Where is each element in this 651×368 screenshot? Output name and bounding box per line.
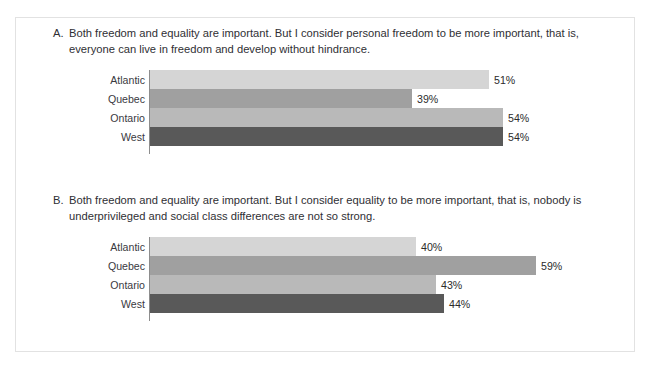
chart-a-bars: Atlantic 51% Quebec 39% Ontario 54% West <box>16 70 634 146</box>
chart-b-value-quebec: 59% <box>541 260 562 272</box>
chart-a-value-ontario: 54% <box>508 112 529 124</box>
panel-b-caption: B. Both freedom and equality are importa… <box>53 193 598 224</box>
chart-a-row-ontario: Ontario 54% <box>16 108 634 127</box>
panel-b-letter: B. <box>53 193 64 209</box>
chart-a-label-quebec: Quebec <box>16 93 145 105</box>
chart-b-bar-ontario <box>150 275 436 294</box>
panel-b: B. Both freedom and equality are importa… <box>16 193 634 323</box>
panel-a-letter: A. <box>53 26 64 42</box>
panel-b-caption-text: Both freedom and equality are important.… <box>53 193 598 224</box>
panel-a-caption: A. Both freedom and equality are importa… <box>53 26 598 57</box>
chart-b-label-ontario: Ontario <box>16 279 145 291</box>
chart-b-row-atlantic: Atlantic 40% <box>16 237 634 256</box>
chart-a-label-atlantic: Atlantic <box>16 74 145 86</box>
chart-a-bar-quebec <box>150 89 412 108</box>
chart-b-bar-west <box>150 294 444 313</box>
chart-b-bars: Atlantic 40% Quebec 59% Ontario 43% West <box>16 237 634 313</box>
chart-b-label-west: West <box>16 298 145 310</box>
chart-a-row-quebec: Quebec 39% <box>16 89 634 108</box>
chart-a-label-ontario: Ontario <box>16 112 145 124</box>
chart-b-row-quebec: Quebec 59% <box>16 256 634 275</box>
figure-frame: A. Both freedom and equality are importa… <box>15 17 635 352</box>
chart-b-value-atlantic: 40% <box>421 241 442 253</box>
chart-a-value-quebec: 39% <box>417 93 438 105</box>
chart-a-value-west: 54% <box>508 131 529 143</box>
chart-b: Atlantic 40% Quebec 59% Ontario 43% West <box>16 237 634 323</box>
chart-a: Atlantic 51% Quebec 39% Ontario 54% West <box>16 70 634 156</box>
chart-b-row-ontario: Ontario 43% <box>16 275 634 294</box>
chart-b-bar-atlantic <box>150 237 416 256</box>
chart-a-label-west: West <box>16 131 145 143</box>
chart-a-bar-ontario <box>150 108 503 127</box>
chart-a-row-west: West 54% <box>16 127 634 146</box>
chart-b-bar-quebec <box>150 256 536 275</box>
chart-b-value-ontario: 43% <box>441 279 462 291</box>
chart-a-row-atlantic: Atlantic 51% <box>16 70 634 89</box>
chart-a-value-atlantic: 51% <box>494 74 515 86</box>
chart-b-label-atlantic: Atlantic <box>16 241 145 253</box>
chart-a-bar-west <box>150 127 503 146</box>
panel-a: A. Both freedom and equality are importa… <box>16 26 634 156</box>
panel-a-caption-text: Both freedom and equality are important.… <box>53 26 598 57</box>
chart-a-bar-atlantic <box>150 70 489 89</box>
chart-b-label-quebec: Quebec <box>16 260 145 272</box>
chart-b-value-west: 44% <box>449 298 470 310</box>
chart-b-row-west: West 44% <box>16 294 634 313</box>
